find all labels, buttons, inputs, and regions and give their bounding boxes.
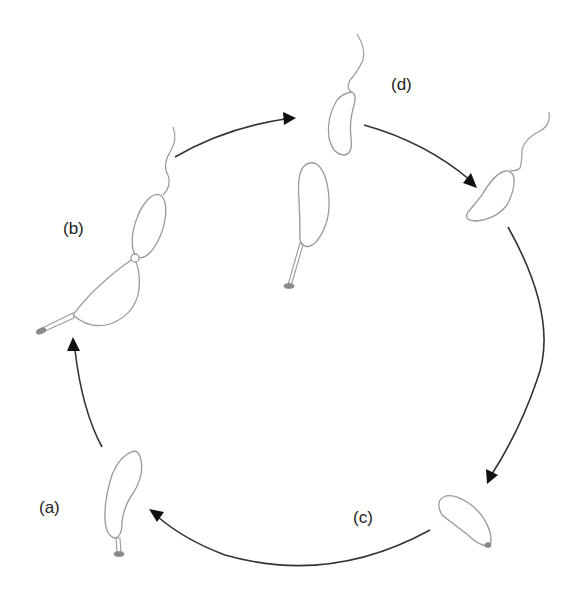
arrow-c-to-a: [149, 509, 430, 566]
arrow-b-to-d: [175, 112, 296, 157]
cell-b-predivisional: [35, 127, 175, 335]
stage-label-b: (b): [63, 220, 84, 237]
life-cycle-diagram: (b) (d) (a) (c): [0, 0, 573, 589]
stage-label-c: (c): [353, 509, 373, 526]
cell-c-swarmer: [439, 496, 491, 548]
cell-d-stalked: [284, 163, 329, 289]
cell-d-swarmer-top: [328, 34, 363, 155]
arrow-a-to-b: [67, 337, 102, 447]
stage-label-a: (a): [39, 499, 60, 516]
cell-a-stalked: [105, 451, 142, 557]
cell-swarmer-right: [467, 112, 550, 221]
stage-label-d: (d): [391, 76, 412, 93]
arrow-d-to-swarmer: [364, 125, 477, 188]
diagram-canvas: [0, 0, 573, 589]
arrow-swarmer-to-c: [486, 227, 544, 484]
